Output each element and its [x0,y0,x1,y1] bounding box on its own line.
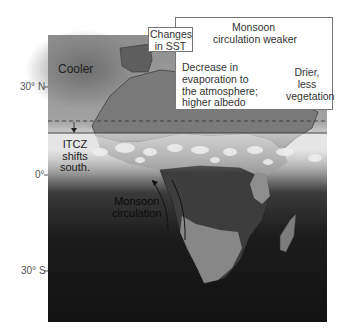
sst-line-1: Changes [150,29,191,41]
feedback-right-text: Drier, less vegetation [286,67,328,102]
latitude-label-equator: 0° [35,169,45,180]
itcz-line-3: south. [60,162,90,174]
cooler-label: Cooler [58,63,93,76]
feedback-left-text: Decrease in evaporation to the atmospher… [182,62,258,109]
left-line-2: evaporation to [182,74,258,86]
left-line-4: higher albedo [182,97,258,109]
monsoon-feedback-diagram: 30° N 0° 30° S Cooler ITCZ shifts south.… [0,0,353,336]
itcz-label: ITCZ shifts south. [60,139,90,174]
sst-line-2: in SST [150,41,191,53]
feedback-top-text: Monsoon [232,22,275,34]
left-line-1: Decrease in [182,62,258,74]
feedback-top-text-2: circulation weaker [213,34,297,46]
latitude-label-30s: 30° S [21,265,46,276]
sst-text: Changes in SST [150,29,191,53]
right-line-1: Drier, [286,67,328,79]
top-line-1: Monsoon [232,22,275,34]
latitude-label-30n: 30° N [20,81,45,92]
monsoon-line-2: circulation [112,208,162,220]
itcz-line-1: ITCZ [60,139,90,151]
right-line-2: less [286,79,328,91]
monsoon-map-label: Monsoon circulation [112,196,162,219]
right-line-3: vegetation [286,91,328,103]
monsoon-line-1: Monsoon [112,196,162,208]
